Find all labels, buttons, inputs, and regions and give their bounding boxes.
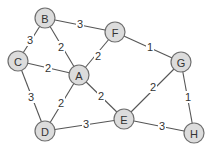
edge-f-g: 1 [115, 32, 181, 62]
edge-weight-label: 2 [45, 62, 51, 74]
edge-weight-label: 3 [159, 120, 165, 132]
nodes-layer: ABCDEFGH [8, 8, 204, 143]
edge-g-h: 1 [181, 62, 194, 133]
edge-weight-label: 3 [83, 118, 89, 130]
node-c: C [8, 51, 28, 71]
node-label: A [75, 70, 83, 82]
node-f: F [105, 22, 125, 42]
node-label: F [112, 27, 119, 39]
edge-weight-label: 3 [77, 18, 83, 30]
node-label: B [41, 13, 48, 25]
node-b: B [35, 8, 55, 28]
edge-weight-label: 1 [147, 41, 153, 53]
edge-d-e: 3 [45, 118, 124, 131]
edge-weight-label: 3 [28, 91, 34, 103]
node-h: H [184, 123, 204, 143]
node-label: H [190, 128, 198, 140]
node-a: A [69, 65, 89, 85]
edge-weight-label: 3 [27, 34, 33, 46]
edge-weight-label: 2 [58, 41, 64, 53]
edge-g-e: 2 [124, 62, 181, 119]
node-label: D [41, 126, 49, 138]
node-label: E [120, 114, 127, 126]
edge-weight-label: 2 [98, 90, 104, 102]
edge-weight-label: 2 [58, 97, 64, 109]
node-label: C [14, 56, 22, 68]
node-e: E [114, 109, 134, 129]
edge-weight-label: 2 [95, 50, 101, 62]
edge-e-h: 3 [124, 119, 194, 133]
graph-diagram: 3322123222133 ABCDEFGH [0, 0, 215, 151]
node-d: D [35, 121, 55, 141]
edge-c-d: 3 [18, 61, 45, 131]
edge-b-f: 3 [45, 18, 115, 32]
node-label: G [177, 57, 186, 69]
node-g: G [171, 52, 191, 72]
edge-weight-label: 2 [150, 81, 156, 93]
edge-weight-label: 1 [185, 91, 191, 103]
